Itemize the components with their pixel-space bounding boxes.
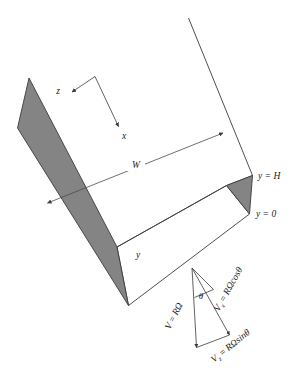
channel-end-cap [227,176,253,215]
x-axis-arrow [95,77,119,127]
velocity-z-label: Vz = RΩsinθ [209,327,253,366]
y-corner-label: y [135,250,141,260]
channel-far-wall [117,18,253,247]
velocity-resultant-vector [192,268,197,348]
y-equals-H-label: y = H [257,171,281,181]
coordinate-axes: z x [55,77,127,142]
velocity-z-label-group: Vz = RΩsinθ [209,327,253,366]
y-equals-0-label: y = 0 [255,209,276,219]
velocity-x-label: Vx = RΩcosθ [212,265,246,314]
axis-label-x: x [121,131,127,141]
channel-velocity-diagram: z x W y y = H y = 0 θ [0,0,294,375]
angle-arc-arm [192,268,214,290]
figure-container: z x W y y = H y = 0 θ [0,0,294,375]
width-label: W [132,160,141,170]
axis-label-z: z [55,86,60,96]
velocity-resultant-label-group: V = RΩ [163,301,185,331]
velocity-x-label-group: Vx = RΩcosθ [212,265,246,314]
velocity-x-expression: RΩcosθ [221,265,245,297]
velocity-resultant-label: V = RΩ [163,301,185,331]
angle-theta-label: θ [199,291,204,301]
angle-arc-closure [195,290,214,298]
z-axis-arrow [72,77,95,93]
